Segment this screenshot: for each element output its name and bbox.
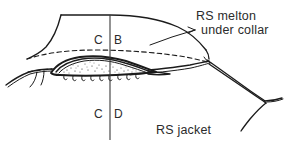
jacket-left-tack	[30, 72, 37, 87]
annotation-jacket: RS jacket	[156, 123, 212, 137]
jacket-left-shoulder-edge	[27, 15, 61, 59]
leader-stroke	[150, 30, 195, 45]
stitch-loop	[73, 76, 76, 81]
leader-arrow-upper	[188, 27, 195, 30]
centre-back-bottom-right-mark: D	[114, 107, 123, 121]
annotation-melton-line1: RS melton	[196, 9, 256, 23]
strap-lower-edge	[209, 64, 266, 103]
collar-construction-figure: RS melton under collar C B C D RS jacket	[0, 0, 290, 149]
stitch-loop	[82, 76, 85, 81]
melton-leader-line	[150, 27, 195, 45]
centre-back-top-left-mark: C	[94, 33, 103, 47]
jacket-left-tack-2	[41, 71, 44, 85]
stitch-loop	[100, 76, 103, 81]
figure-drawing: RS melton under collar C B C D RS jacket	[0, 0, 290, 149]
collar-stand-strap	[204, 57, 283, 131]
annotation-melton-line2: under collar	[201, 23, 269, 37]
centre-back-top-right-mark: B	[114, 33, 122, 47]
stitch-loop	[127, 75, 130, 80]
stitch-loop	[91, 76, 94, 81]
strap-upper-edge	[207, 60, 265, 101]
jacket-top-edge	[61, 15, 206, 50]
strap-point-lower	[241, 103, 266, 131]
centre-back-bottom-left-mark: C	[94, 107, 103, 121]
jacket-right-edge	[206, 50, 209, 59]
